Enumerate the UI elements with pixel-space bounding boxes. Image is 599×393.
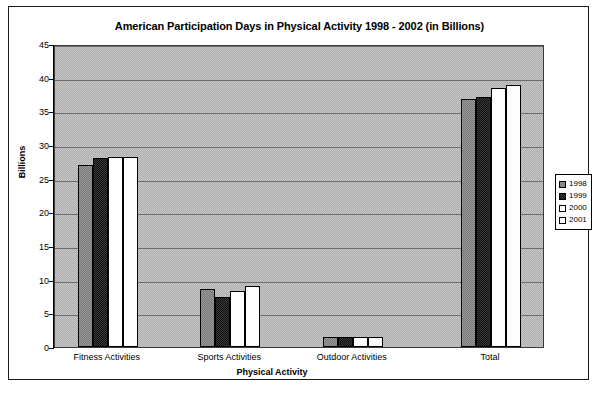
- y-tick-label: 40: [15, 74, 49, 84]
- chart-title: American Participation Days in Physical …: [9, 20, 590, 32]
- chart-legend: 1998199920002001: [555, 174, 592, 230]
- bar-2000-sports-activities[interactable]: [230, 291, 245, 347]
- legend-label: 2001: [569, 216, 587, 224]
- y-axis-ticks: 051015202530354045: [9, 7, 49, 379]
- bar-1998-sports-activities[interactable]: [200, 289, 215, 347]
- bar-2001-outdoor-activities[interactable]: [368, 337, 383, 347]
- y-tick-label: 35: [15, 107, 49, 117]
- bar-1999-total[interactable]: [476, 97, 491, 347]
- bar-2001-total[interactable]: [506, 85, 521, 347]
- legend-swatch-icon: [559, 205, 566, 212]
- bar-2000-total[interactable]: [491, 88, 506, 347]
- y-tick-label: 5: [15, 309, 49, 319]
- bar-2000-outdoor-activities[interactable]: [353, 337, 368, 347]
- legend-label: 2000: [569, 204, 587, 212]
- legend-swatch-icon: [559, 193, 566, 200]
- y-tick-label: 30: [15, 141, 49, 151]
- legend-swatch-icon: [559, 217, 566, 224]
- bar-2000-fitness-activities[interactable]: [108, 157, 123, 347]
- bar-1999-sports-activities[interactable]: [215, 297, 230, 348]
- legend-item-2001[interactable]: 2001: [559, 214, 587, 226]
- bar-group: [200, 46, 260, 347]
- bar-group: [461, 46, 521, 347]
- legend-swatch-icon: [559, 181, 566, 188]
- y-tick-label: 10: [15, 276, 49, 286]
- legend-label: 1999: [569, 192, 587, 200]
- bar-group: [78, 46, 138, 347]
- bar-1998-fitness-activities[interactable]: [78, 165, 93, 347]
- x-axis-title: Physical Activity: [192, 367, 352, 377]
- bar-1999-outdoor-activities[interactable]: [338, 337, 353, 347]
- bar-1999-fitness-activities[interactable]: [93, 158, 108, 347]
- x-tick-label: Fitness Activities: [73, 352, 140, 362]
- y-tick-label: 45: [15, 40, 49, 50]
- x-axis-ticks: Fitness ActivitiesSports ActivitiesOutdo…: [54, 352, 544, 366]
- x-tick-label: Sports Activities: [197, 352, 261, 362]
- chart-figure: American Participation Days in Physical …: [8, 6, 589, 380]
- y-tick-label: 20: [15, 208, 49, 218]
- bar-2001-sports-activities[interactable]: [245, 286, 260, 347]
- legend-item-2000[interactable]: 2000: [559, 202, 587, 214]
- y-tick-label: 0: [15, 343, 49, 353]
- y-tick-label: 25: [15, 175, 49, 185]
- legend-item-1999[interactable]: 1999: [559, 190, 587, 202]
- x-tick-label: Total: [481, 352, 500, 362]
- legend-label: 1998: [569, 180, 587, 188]
- bar-2001-fitness-activities[interactable]: [123, 157, 138, 347]
- bar-group: [323, 46, 383, 347]
- y-tick-label: 15: [15, 242, 49, 252]
- x-tick-label: Outdoor Activities: [317, 352, 387, 362]
- plot-area: [54, 45, 544, 348]
- bar-1998-outdoor-activities[interactable]: [323, 337, 338, 347]
- bar-1998-total[interactable]: [461, 99, 476, 347]
- legend-item-1998[interactable]: 1998: [559, 178, 587, 190]
